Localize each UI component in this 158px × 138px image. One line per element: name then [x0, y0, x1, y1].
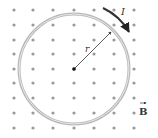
- field-dot: [132, 52, 135, 55]
- field-dot: [132, 126, 135, 129]
- field-dot: [51, 126, 54, 129]
- field-dot: [112, 52, 115, 55]
- field-dot: [112, 67, 115, 70]
- field-dot: [72, 23, 75, 26]
- field-dot: [92, 96, 95, 99]
- field-dot: [132, 111, 135, 114]
- field-dot: [12, 81, 15, 84]
- field-dot: [51, 23, 54, 26]
- radius-arrow: [72, 32, 111, 71]
- field-dot: [31, 23, 34, 26]
- field-dot: [72, 111, 75, 114]
- field-dot: [12, 38, 15, 41]
- field-dot: [112, 23, 115, 26]
- field-dot: [31, 67, 34, 70]
- field-dot: [72, 96, 75, 99]
- field-dot: [112, 8, 115, 11]
- field-dot: [12, 111, 15, 114]
- field-dot: [132, 67, 135, 70]
- field-dot: [92, 38, 95, 41]
- field-dot: [72, 38, 75, 41]
- field-dot: [31, 126, 34, 129]
- field-dot: [92, 23, 95, 26]
- field-dot: [31, 111, 34, 114]
- field-dot: [72, 81, 75, 84]
- field-dot: [51, 96, 54, 99]
- field-dot: [132, 96, 135, 99]
- current-direction-arrow: [103, 8, 129, 32]
- field-dot: [51, 38, 54, 41]
- field-dot: [112, 38, 115, 41]
- field-dot: [31, 96, 34, 99]
- field-dot: [31, 81, 34, 84]
- field-dot: [51, 81, 54, 84]
- field-dot: [31, 38, 34, 41]
- field-dot: [92, 81, 95, 84]
- field-dot: [92, 67, 95, 70]
- radius-label: r: [85, 44, 90, 54]
- field-dot: [92, 52, 95, 55]
- field-dot: [12, 23, 15, 26]
- field-dot: [112, 81, 115, 84]
- field-dot: [92, 8, 95, 11]
- current-label: I: [120, 6, 126, 17]
- field-dot: [92, 126, 95, 129]
- field-dot: [132, 38, 135, 41]
- field-dot: [51, 67, 54, 70]
- field-vector-label: B: [139, 103, 147, 117]
- field-dot: [72, 8, 75, 11]
- field-dot: [112, 126, 115, 129]
- field-dot: [12, 126, 15, 129]
- field-dot: [112, 96, 115, 99]
- field-dot: [132, 23, 135, 26]
- field-dot: [31, 52, 34, 55]
- field-dot: [12, 67, 15, 70]
- field-dot: [132, 8, 135, 11]
- field-dot: [31, 8, 34, 11]
- field-dot: [12, 52, 15, 55]
- field-dot: [12, 8, 15, 11]
- field-dot: [72, 52, 75, 55]
- field-dot: [51, 52, 54, 55]
- field-dot: [51, 8, 54, 11]
- diagram-canvas: I r B: [0, 0, 158, 138]
- field-dot: [132, 81, 135, 84]
- field-dot: [12, 96, 15, 99]
- field-label: B: [139, 106, 147, 117]
- field-dot: [51, 111, 54, 114]
- field-dot: [72, 126, 75, 129]
- field-dot: [112, 111, 115, 114]
- field-dot: [92, 111, 95, 114]
